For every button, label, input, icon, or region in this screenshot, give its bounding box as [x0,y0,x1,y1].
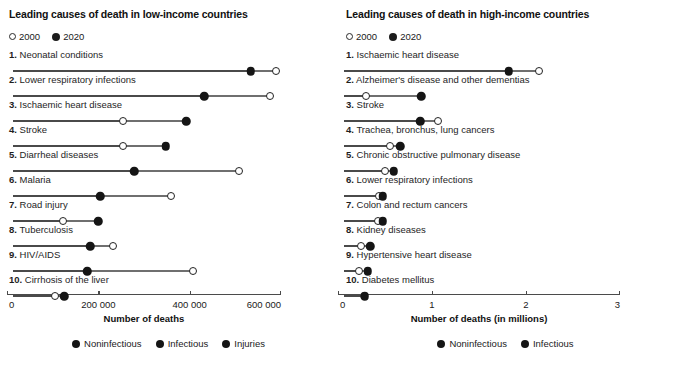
row-rank: 9. [346,249,354,260]
axis-tick [7,291,8,295]
marker-2020 [378,217,387,226]
row-label: 4. Trachea, bronchus, lung cancers [346,124,494,135]
chart-page: Leading causes of death in low-income co… [0,0,674,366]
category-legend-low-income: NoninfectiousInfectiousInjuries [0,338,337,349]
row-stem-line [13,220,63,222]
axis-tick-label: 3 [615,299,620,310]
dumbbell-row: 3. Ischaemic heart disease [6,99,337,124]
category-legend-label: Infectious [168,338,209,349]
axis-tick-label: 2 [523,299,528,310]
row-label: 8. Tuberculosis [9,224,73,235]
filled-circle-icon [437,340,445,348]
marker-2020 [200,92,209,101]
panel-high-income: Leading causes of death in high-income c… [337,0,674,366]
marker-2000 [272,67,280,75]
category-legend-item: Injuries [222,338,265,349]
row-stem-line [13,120,123,122]
row-label: 9. Hypertensive heart disease [346,249,472,260]
row-label: 6. Lower respiratory infections [346,174,473,185]
dumbbell-row: 4. Trachea, bronchus, lung cancers [343,124,674,149]
category-legend-item: Infectious [521,338,574,349]
year-key-item-2000: 2000 [9,31,40,42]
marker-2020 [390,167,399,176]
row-label-text: Lower respiratory infections [17,74,136,85]
x-axis-high-income: Number of deaths (in millions) 0123 [338,294,620,320]
marker-2000 [357,242,365,250]
row-stem-line [344,120,420,122]
dumbbell-row: 4. Stroke [6,124,337,149]
marker-2020 [86,242,95,251]
panel-low-income: Leading causes of death in low-income co… [0,0,337,366]
row-label-text: Stroke [17,124,47,135]
row-rank: 10. [346,274,359,285]
row-label-text: Trachea, bronchus, lung cancers [354,124,494,135]
axis-tick-label: 0 [9,299,14,310]
row-stem-line [13,195,100,197]
filled-circle-icon [521,340,529,348]
row-label-text: Chronic obstructive pulmonary disease [354,149,520,160]
row-label: 5. Chronic obstructive pulmonary disease [346,149,520,160]
dumbbell-row: 2. Alzheimer's disease and other dementi… [343,74,674,99]
x-axis-title: Number of deaths [7,313,281,324]
row-stem-line [344,195,379,197]
row-label: 10. Cirrhosis of the liver [9,274,109,285]
row-label: 1. Neonatal conditions [9,49,103,60]
row-stem-line [13,245,90,247]
row-label: 3. Stroke [346,99,384,110]
row-label: 4. Stroke [9,124,47,135]
dumbbell-row: 9. HIV/AIDS [6,249,337,274]
row-label: 9. HIV/AIDS [9,249,60,260]
marker-2000 [109,242,117,250]
row-rank: 10. [9,274,22,285]
category-legend-label: Injuries [234,338,265,349]
axis-tick [526,291,527,295]
filled-circle-icon [389,33,397,41]
x-axis-low-income: Number of deaths 0200 000400 000600 000 [7,294,281,320]
marker-2020 [360,292,369,301]
axis-tick-label: 400 000 [172,299,206,310]
marker-2020 [83,267,92,276]
dumbbell-row: 6. Malaria [6,174,337,199]
row-label-text: Ischaemic heart disease [17,99,122,110]
marker-2000 [189,267,197,275]
axis-tick [98,291,99,295]
row-connector-line [134,170,238,172]
category-legend-item: Infectious [156,338,209,349]
row-stem-line [13,270,87,272]
row-rank: 1. [9,49,17,60]
row-rank: 5. [346,149,354,160]
row-rank: 2. [346,74,354,85]
filled-circle-icon [156,340,164,348]
year-key-low-income: 2000 2020 [9,31,337,42]
axis-tick [280,291,281,295]
row-label: 7. Colon and rectum cancers [346,199,467,210]
row-rank: 3. [346,99,354,110]
marker-2000 [119,142,127,150]
row-label: 2. Alzheimer's disease and other dementi… [346,74,530,85]
dumbbell-row: 7. Colon and rectum cancers [343,199,674,224]
marker-2000 [235,167,243,175]
row-stem-line [13,145,123,147]
dumbbell-row: 8. Kidney diseases [343,224,674,249]
filled-circle-icon [222,340,230,348]
category-legend-high-income: NoninfectiousInfectious [337,338,674,349]
row-label-text: Colon and rectum cancers [354,199,468,210]
row-stem-line [344,220,378,222]
marker-2000 [434,117,442,125]
axis-line [338,294,620,295]
marker-2000 [119,117,127,125]
row-label-text: Road injury [17,199,68,210]
axis-tick [190,291,191,295]
row-rank: 9. [9,249,17,260]
year-key-label-2020: 2020 [63,31,84,42]
category-legend-item: Noninfectious [72,338,142,349]
page-title-low-income: Leading causes of death in low-income co… [9,8,337,20]
marker-2020 [60,292,69,301]
year-key-label-2020: 2020 [400,31,421,42]
row-label: 2. Lower respiratory infections [9,74,136,85]
open-circle-icon [346,33,353,40]
row-stem-line [344,145,390,147]
x-axis-title: Number of deaths (in millions) [338,313,620,324]
marker-2000 [167,192,175,200]
category-legend-item: Noninfectious [437,338,507,349]
